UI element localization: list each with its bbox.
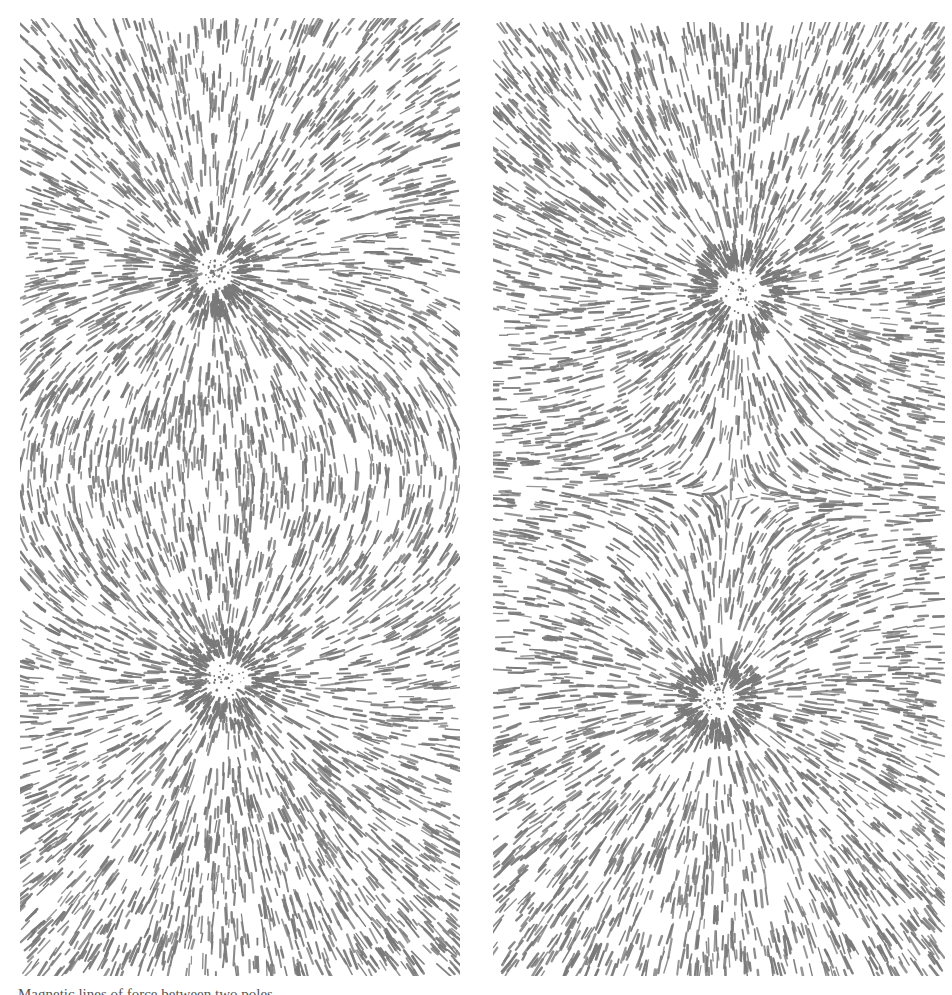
left-panel-unlike-poles xyxy=(20,18,460,976)
figure-caption: Magnetic lines of force between two pole… xyxy=(18,984,273,995)
iron-filings-image-right xyxy=(493,22,945,976)
iron-filings-image-left xyxy=(20,18,460,976)
right-panel-like-poles xyxy=(493,22,945,976)
